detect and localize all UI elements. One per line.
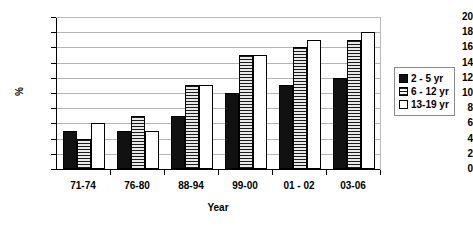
bar	[225, 93, 239, 169]
bar-group	[219, 17, 273, 169]
legend-swatch-icon	[399, 87, 408, 96]
bar	[279, 85, 293, 169]
y-axis-title: %	[14, 81, 25, 103]
x-axis-title: Year	[56, 202, 380, 213]
y-tick-label: 2	[425, 149, 473, 159]
x-tick-mark	[272, 170, 273, 175]
y-tick-label: 20	[425, 12, 473, 22]
x-tick-label: 03-06	[318, 180, 388, 191]
legend-label: 2 - 5 yr	[411, 74, 443, 84]
bar	[307, 40, 321, 169]
bar	[77, 139, 91, 169]
x-tick-mark	[164, 170, 165, 175]
bar	[361, 32, 375, 169]
legend-swatch-icon	[399, 74, 408, 83]
y-tick-label: 18	[425, 27, 473, 37]
x-tick-mark	[326, 170, 327, 175]
bar	[91, 123, 105, 169]
bar-group	[57, 17, 111, 169]
bar-chart: % 02468101214161820 71-7476-8088-9499-00…	[0, 0, 473, 228]
legend-label: 13-19 yr	[411, 100, 449, 110]
bar	[199, 85, 213, 169]
x-tick-mark	[110, 170, 111, 175]
x-tick-mark	[218, 170, 219, 175]
bar	[239, 55, 253, 169]
x-tick-mark	[380, 170, 381, 175]
bar	[347, 40, 361, 169]
legend-item: 6 - 12 yr	[399, 85, 449, 98]
plot-area	[56, 17, 381, 170]
bar	[131, 116, 145, 169]
bar	[333, 78, 347, 169]
bar-group	[327, 17, 381, 169]
bar	[253, 55, 267, 169]
legend-label: 6 - 12 yr	[411, 87, 449, 97]
y-tick-label: 4	[425, 134, 473, 144]
legend: 2 - 5 yr6 - 12 yr13-19 yr	[394, 67, 455, 116]
bar	[293, 47, 307, 169]
legend-item: 13-19 yr	[399, 98, 449, 111]
bar	[185, 85, 199, 169]
y-tick-label: 6	[425, 118, 473, 128]
legend-item: 2 - 5 yr	[399, 72, 449, 85]
legend-swatch-icon	[399, 100, 408, 109]
bar	[63, 131, 77, 169]
bar	[145, 131, 159, 169]
bar-group	[165, 17, 219, 169]
y-tick-label: 16	[425, 42, 473, 52]
bar	[171, 116, 185, 169]
bar	[117, 131, 131, 169]
bar-group	[273, 17, 327, 169]
bar-group	[111, 17, 165, 169]
y-tick-label: 0	[425, 164, 473, 174]
